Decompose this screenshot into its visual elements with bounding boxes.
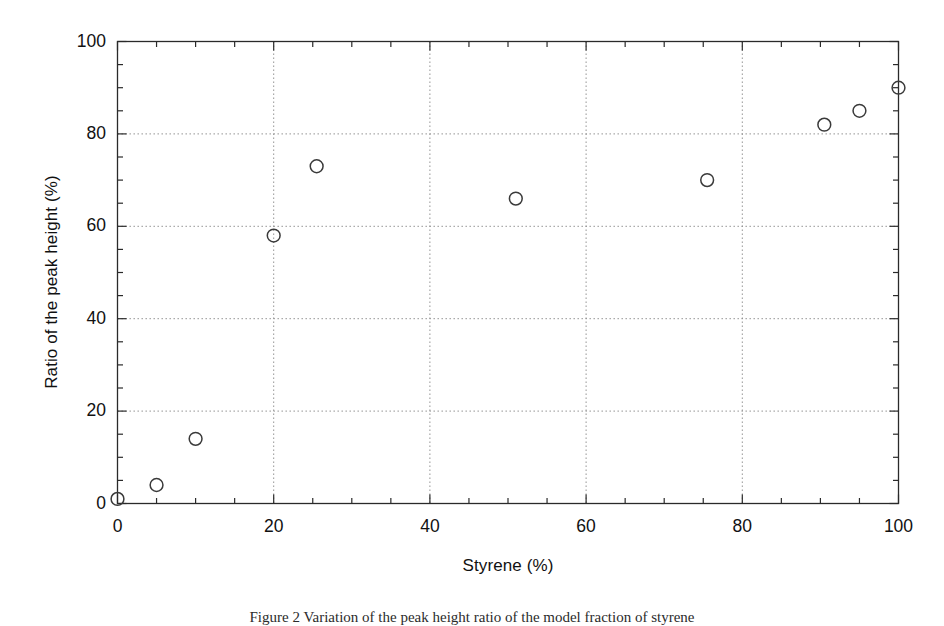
- x-axis-tick-labels: 020406080100: [0, 518, 944, 546]
- x-axis-tick-label: 20: [244, 518, 304, 536]
- data-point: [189, 432, 202, 445]
- data-point: [310, 160, 323, 173]
- data-point: [853, 104, 866, 117]
- minor-tick-marks: [118, 42, 899, 504]
- x-axis-tick-label: 80: [712, 518, 772, 536]
- major-tick-marks: [118, 42, 899, 504]
- y-axis-tick-label: 20: [46, 402, 106, 420]
- figure-caption: Figure 2 Variation of the peak height ra…: [0, 609, 944, 626]
- data-point: [701, 174, 714, 187]
- x-axis-label: Styrene (%): [117, 556, 899, 576]
- y-axis-tick-label: 80: [46, 125, 106, 143]
- data-point-group: [111, 81, 905, 505]
- data-point: [267, 229, 280, 242]
- x-axis-tick-label: 40: [400, 518, 460, 536]
- y-axis-tick-label: 40: [46, 310, 106, 328]
- y-axis-tick-label: 60: [46, 217, 106, 235]
- gridlines: [118, 42, 899, 504]
- y-axis-tick-label: 100: [46, 33, 106, 51]
- x-axis-tick-label: 60: [556, 518, 616, 536]
- plot-frame: [118, 42, 899, 504]
- y-axis-tick-label: 0: [46, 495, 106, 513]
- data-point: [818, 118, 831, 131]
- data-point: [150, 479, 163, 492]
- data-point: [509, 192, 522, 205]
- x-axis-tick-label: 0: [88, 518, 148, 536]
- x-axis-tick-label: 100: [869, 518, 929, 536]
